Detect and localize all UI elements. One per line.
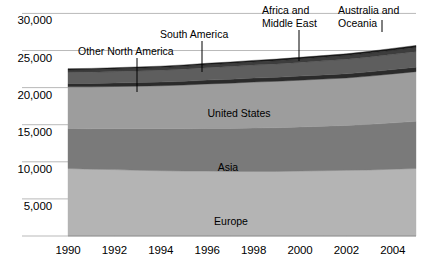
y-axis-tick-label: 30,000: [0, 15, 52, 27]
x-axis-tick-label: 1998: [231, 245, 277, 257]
callout-other-north-america: Other North America: [78, 45, 174, 58]
callout-south-america: South America: [160, 28, 228, 41]
area-series-group: [68, 45, 416, 236]
y-axis-tick-label: 5,000: [0, 201, 52, 213]
x-axis-tick-label: 1990: [45, 245, 91, 257]
x-axis-tick-label: 2002: [323, 245, 369, 257]
series-label-united-states: United States: [207, 107, 270, 119]
series-label-europe: Europe: [214, 215, 248, 227]
callout-line: Africa and: [262, 4, 317, 17]
callout-africa-and-middle-east: Africa andMiddle East: [262, 4, 317, 29]
series-label-asia: Asia: [218, 161, 238, 173]
chart-root: 5,00010,00015,00020,00025,00030,00019901…: [0, 0, 424, 264]
y-axis-tick-label: 20,000: [0, 90, 52, 102]
x-axis-tick-label: 2004: [370, 245, 416, 257]
x-axis-tick-label: 2000: [277, 245, 323, 257]
callout-australia-and-oceania: Australia andOceania: [338, 4, 399, 29]
y-axis-tick-label: 25,000: [0, 53, 52, 65]
x-axis-tick-label: 1996: [184, 245, 230, 257]
callout-line: Oceania: [338, 17, 399, 30]
x-axis-tick-label: 1992: [91, 245, 137, 257]
callout-line: Australia and: [338, 4, 399, 17]
x-axis-tick-label: 1994: [138, 245, 184, 257]
callout-line: Middle East: [262, 17, 317, 30]
y-axis-tick-label: 10,000: [0, 164, 52, 176]
y-axis-tick-label: 15,000: [0, 127, 52, 139]
